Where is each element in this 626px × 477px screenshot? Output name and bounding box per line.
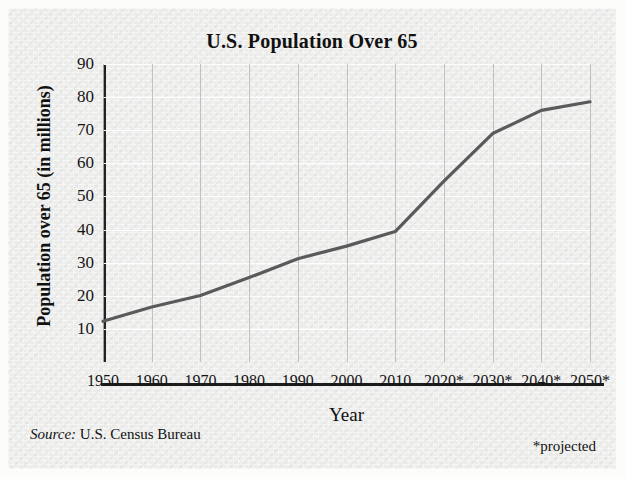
x-tick-label: 2000 (331, 372, 363, 390)
x-tick-label: 2020* (424, 372, 464, 390)
source-label: Source: (30, 426, 76, 442)
plot-area: 102030405060708090 195019601970198019902… (103, 64, 590, 362)
source-note: Source: U.S. Census Bureau (30, 426, 201, 443)
x-axis-label: Year (103, 404, 590, 426)
y-tick-label: 90 (77, 54, 94, 74)
x-tick-label: 2050* (570, 372, 610, 390)
y-tick-label: 50 (77, 186, 94, 206)
y-tick-label: 20 (77, 286, 94, 306)
x-tick-label: 1960 (136, 372, 168, 390)
y-tick-label: 60 (77, 153, 94, 173)
chart-title: U.S. Population Over 65 (8, 30, 616, 53)
data-series-line (103, 64, 590, 362)
gridline-vertical (590, 64, 591, 362)
y-tick-label: 80 (77, 87, 94, 107)
x-tick-label: 2030* (473, 372, 513, 390)
y-tick-label: 70 (77, 120, 94, 140)
x-tick-label: 1970 (184, 372, 216, 390)
y-tick-label: 10 (77, 319, 94, 339)
x-tick-label: 2040* (521, 372, 561, 390)
x-tick-label: 1980 (233, 372, 265, 390)
source-text: U.S. Census Bureau (80, 426, 201, 442)
y-axis-label: Population over 65 (in millions) (34, 56, 55, 356)
x-tick-label: 2010 (379, 372, 411, 390)
y-tick-label: 30 (77, 253, 94, 273)
x-tick-label: 1950 (87, 372, 119, 390)
y-tick-label: 40 (77, 220, 94, 240)
x-tick-label: 1990 (282, 372, 314, 390)
chart-page: U.S. Population Over 65 1020304050607080… (0, 0, 626, 477)
chart-canvas: U.S. Population Over 65 1020304050607080… (8, 8, 616, 469)
projected-footnote: *projected (533, 438, 596, 455)
